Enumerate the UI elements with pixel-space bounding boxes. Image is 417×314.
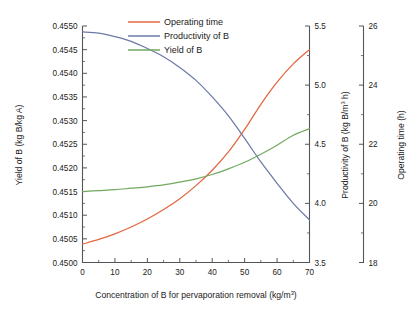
left-tick-label: 0.4510 — [52, 211, 77, 220]
productivity-tick-label: 5.5 — [315, 22, 327, 31]
x-title-base: Concentration of B for pervaporation rem… — [95, 290, 290, 300]
productivity-tick-label: 3.5 — [315, 259, 327, 268]
x-tick-label: 50 — [240, 268, 250, 277]
productivity-title-tail: h) — [340, 91, 350, 101]
productivity-title-base: Productivity of B (kg B/m — [340, 105, 350, 199]
left-tick-label: 0.4515 — [52, 188, 77, 197]
left-axis-title: Yield of B (kg B/kg A) — [14, 104, 24, 185]
left-tick-label: 0.4530 — [52, 117, 77, 126]
productivity-tick-label: 4.5 — [315, 140, 327, 149]
x-title-tail: ) — [294, 290, 297, 300]
x-tick-label: 40 — [208, 268, 218, 277]
left-tick-label: 0.4505 — [52, 235, 77, 244]
x-tick-label: 10 — [110, 268, 120, 277]
x-tick-label: 70 — [305, 268, 315, 277]
left-tick-label: 0.4540 — [52, 69, 77, 78]
productivity-tick-label: 5.0 — [315, 81, 327, 90]
x-axis-title: Concentration of B for pervaporation rem… — [95, 290, 297, 300]
left-tick-label: 0.4500 — [52, 259, 77, 268]
left-tick-label: 0.4525 — [52, 140, 77, 149]
operating-time-tick-label: 18 — [369, 259, 379, 268]
operating-time-tick-label: 26 — [369, 22, 379, 31]
operating-time-tick-label: 22 — [369, 140, 379, 149]
left-tick-label: 0.4520 — [52, 164, 77, 173]
right-operating-time-axis-title: Operating time (h) — [396, 110, 406, 179]
operating-time-tick-label: 20 — [369, 199, 379, 208]
x-tick-label: 0 — [80, 268, 85, 277]
legend-label-1: Productivity of B — [164, 31, 229, 41]
multi-axis-line-chart: 0.45000.45050.45100.45150.45200.45250.45… — [0, 0, 417, 314]
left-tick-label: 0.4550 — [52, 22, 77, 31]
legend-label-2: Yield of B — [164, 45, 202, 55]
left-tick-label: 0.4535 — [52, 93, 77, 102]
left-tick-label: 0.4545 — [52, 46, 77, 55]
productivity-tick-label: 4.0 — [315, 199, 327, 208]
x-tick-label: 20 — [143, 268, 153, 277]
operating-time-tick-label: 24 — [369, 81, 379, 90]
right-productivity-axis-title: Productivity of B (kg B/m3 h) — [340, 91, 350, 198]
x-tick-label: 60 — [273, 268, 283, 277]
legend-label-0: Operating time — [164, 17, 223, 27]
x-tick-label: 30 — [175, 268, 185, 277]
chart-page: 0.45000.45050.45100.45150.45200.45250.45… — [0, 0, 417, 314]
